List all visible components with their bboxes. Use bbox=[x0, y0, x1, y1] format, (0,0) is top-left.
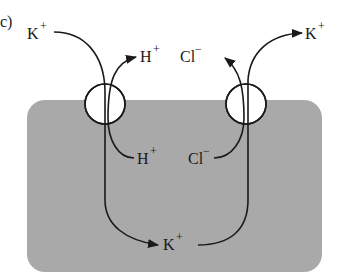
svg-text:K: K bbox=[163, 236, 175, 253]
svg-text:−: − bbox=[195, 42, 202, 56]
svg-text:+: + bbox=[153, 42, 160, 56]
svg-text:+: + bbox=[176, 230, 183, 244]
svg-text:−: − bbox=[203, 144, 210, 158]
ion-transport-diagram: c) K + H + Cl − K + H + Cl − K + bbox=[0, 0, 338, 279]
label-h-outside: H + bbox=[140, 42, 160, 65]
svg-text:H: H bbox=[137, 150, 149, 167]
svg-text:+: + bbox=[318, 19, 325, 33]
panel-label: c) bbox=[0, 13, 12, 31]
svg-text:Cl: Cl bbox=[180, 48, 196, 65]
svg-text:K: K bbox=[305, 25, 317, 42]
label-k-outside-right: K + bbox=[305, 19, 325, 42]
svg-text:K: K bbox=[27, 25, 39, 42]
label-k-outside-left: K + bbox=[27, 19, 47, 42]
svg-text:Cl: Cl bbox=[188, 150, 204, 167]
svg-text:H: H bbox=[140, 48, 152, 65]
svg-text:+: + bbox=[150, 144, 157, 158]
svg-text:+: + bbox=[40, 19, 47, 33]
label-cl-outside: Cl − bbox=[180, 42, 202, 65]
